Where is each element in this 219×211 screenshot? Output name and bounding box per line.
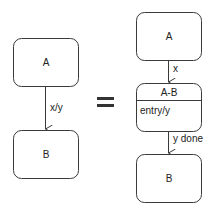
right-transition-1-label: x — [173, 63, 178, 74]
composite-state-a-b: A-B entry/y — [137, 84, 202, 132]
composite-state-name: A-B — [161, 87, 178, 98]
left-transition-label: x/y — [50, 102, 63, 113]
composite-state-action: entry/y — [140, 105, 170, 116]
right-state-a: A — [137, 13, 202, 61]
left-state-b: B — [14, 131, 79, 179]
state-diagram-equivalence: A x/y B A x A-B entry/y y done B — [0, 0, 219, 211]
right-diagram: A x A-B entry/y y done B — [137, 13, 204, 203]
right-state-b-label: B — [166, 173, 173, 184]
left-state-a-label: A — [43, 57, 50, 68]
right-transition-2-label: y done — [173, 133, 203, 144]
right-state-a-label: A — [166, 31, 173, 42]
equals-sign — [97, 97, 114, 107]
left-state-b-label: B — [43, 149, 50, 160]
left-diagram: A x/y B — [14, 39, 79, 179]
left-state-a: A — [14, 39, 79, 87]
right-state-b: B — [137, 155, 202, 203]
